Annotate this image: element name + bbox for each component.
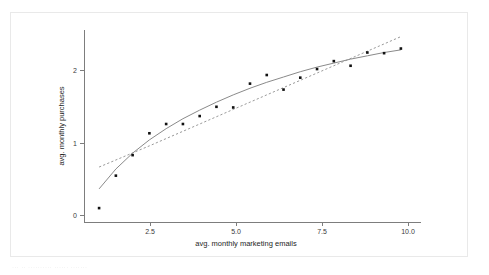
logarithmic-fit-curve [99,50,401,189]
x-tick-label-2-5: 2.5 [145,228,155,235]
data-point [349,64,352,67]
x-axis-title: avg. monthly marketing emails [195,239,297,248]
x-tick-label-7-5: 7.5 [317,228,327,235]
data-point [215,106,218,109]
data-point [282,88,285,91]
data-point [98,207,101,210]
data-point [131,154,134,157]
figure-caption: ··· ·· ·········· ······ ······· [12,262,312,273]
data-point [148,132,151,135]
data-point [249,82,252,85]
y-tick-label-2: 2 [73,67,77,74]
x-axis-ticks: 2.5 5.0 7.5 10.0 [145,222,415,235]
scatter-markers [98,47,402,209]
y-axis-ticks: 2 1 0 [73,67,84,219]
data-point [333,60,336,63]
data-point [165,123,168,126]
y-axis-title: avg. monthly purchases [57,86,66,165]
data-point [400,47,403,50]
data-point [299,76,302,79]
y-tick-label-0: 0 [73,212,77,219]
data-point [182,123,185,126]
data-point [316,68,319,71]
data-point [115,174,118,177]
figure-caption-text: ··· ·· ·········· ······ ······· [12,262,312,273]
data-point [383,52,386,55]
scatter-plot: 2 1 0 2.5 5.0 7.5 10.0 avg. monthly mark… [0,0,489,275]
data-point [232,106,235,109]
y-tick-label-1: 1 [73,140,77,147]
x-tick-label-10-0: 10.0 [401,228,415,235]
data-point [198,115,201,118]
x-tick-label-5-0: 5.0 [231,228,241,235]
figure-root: 2 1 0 2.5 5.0 7.5 10.0 avg. monthly mark… [0,0,489,275]
data-point [366,51,369,54]
data-point [265,74,268,77]
linear-fit-line [99,37,401,167]
